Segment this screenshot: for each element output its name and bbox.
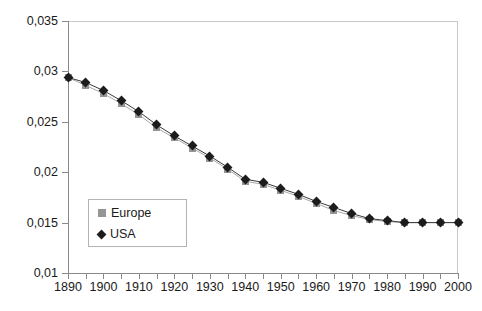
legend: Europe USA — [88, 199, 187, 247]
series-lines-layer — [0, 0, 482, 311]
legend-label-europe: Europe — [111, 207, 151, 220]
legend-swatch-diamond-icon — [97, 229, 107, 239]
legend-item-europe: Europe — [98, 205, 151, 221]
legend-item-usa: USA — [98, 226, 136, 242]
legend-swatch-square-icon — [98, 209, 106, 217]
line-chart: 0,010,0150,020,0250,030,035 189019001910… — [0, 0, 482, 311]
legend-label-usa: USA — [110, 228, 136, 241]
